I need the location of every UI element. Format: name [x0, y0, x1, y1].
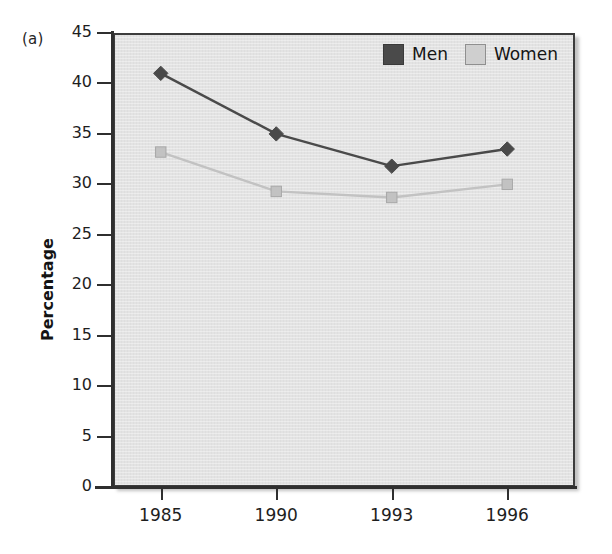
legend-swatch-men [383, 44, 404, 65]
legend-entry-women: Women [465, 44, 558, 65]
data-point-men-1990 [269, 127, 283, 141]
data-point-men-1985 [154, 66, 168, 80]
series-line-men [161, 73, 508, 166]
data-point-men-1993 [385, 159, 399, 173]
data-point-women-1990 [271, 186, 281, 196]
legend-swatch-women [465, 44, 486, 65]
figure-panel-a: (a) 051015202530354045 1985199019931996 … [0, 0, 612, 554]
legend-label-women: Women [494, 46, 558, 63]
data-point-men-1996 [500, 142, 514, 156]
data-point-women-1985 [156, 147, 166, 157]
legend-entry-men: Men [383, 44, 448, 65]
data-point-women-1993 [387, 192, 397, 202]
series-line-women [161, 152, 508, 197]
data-series-layer [0, 0, 612, 554]
chart-legend: Men Women [383, 44, 558, 65]
legend-label-men: Men [412, 46, 448, 63]
data-point-women-1996 [502, 179, 512, 189]
